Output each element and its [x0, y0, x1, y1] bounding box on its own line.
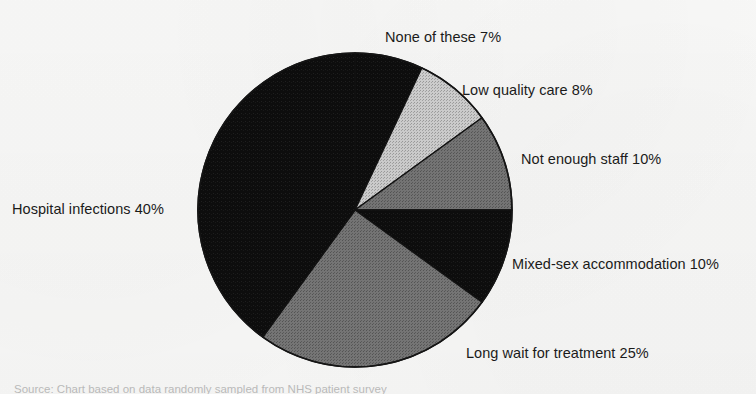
pie-chart-svg — [0, 0, 756, 394]
pie-slices-group — [198, 53, 512, 367]
source-caption: Source: Chart based on data randomly sam… — [14, 383, 534, 394]
pie-label-hospital-infections: Hospital infections 40% — [12, 201, 164, 218]
pie-label-low-quality-care: Low quality care 8% — [462, 82, 593, 99]
pie-chart-page: None of these 7% Low quality care 8% Not… — [0, 0, 756, 394]
pie-chart-figure: None of these 7% Low quality care 8% Not… — [0, 0, 756, 394]
pie-label-mixed-sex-accommodation: Mixed-sex accommodation 10% — [512, 256, 719, 273]
pie-label-none-of-these: None of these 7% — [385, 29, 501, 46]
pie-label-long-wait-for-treatment: Long wait for treatment 25% — [466, 345, 649, 362]
pie-label-not-enough-staff: Not enough staff 10% — [521, 151, 661, 168]
